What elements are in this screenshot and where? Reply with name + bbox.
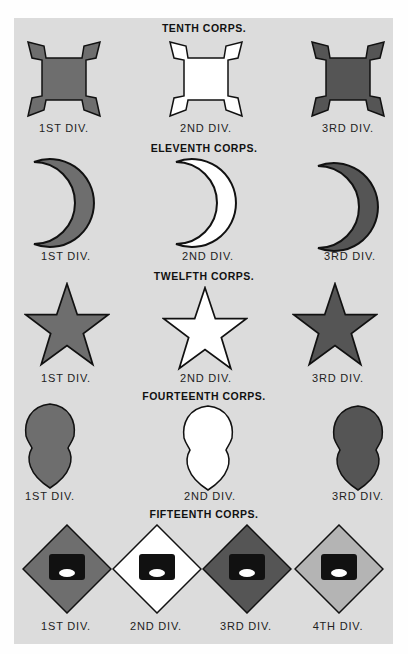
badge-twelfth-2nd-div (162, 286, 248, 372)
label-fifteenth-3rd: 3RD DIV. (206, 620, 286, 632)
label-fifteenth-1st: 1ST DIV. (26, 620, 106, 632)
label-eleventh-2nd: 2ND DIV. (168, 250, 248, 262)
badge-eleventh-3rd-div (314, 160, 386, 254)
title-tenth-corps: TENTH CORPS. (0, 22, 408, 34)
badge-fifteenth-1st-div (22, 524, 112, 614)
title-fourteenth-corps: FOURTEENTH CORPS. (0, 390, 408, 402)
label-tenth-1st: 1ST DIV. (24, 122, 104, 134)
title-fifteenth-corps: FIFTEENTH CORPS. (0, 508, 408, 520)
label-fourteenth-3rd: 3RD DIV. (318, 490, 398, 502)
badge-fifteenth-4th-div (294, 524, 384, 614)
badge-twelfth-3rd-div (292, 282, 378, 368)
badge-fourteenth-1st-div (22, 402, 78, 490)
badge-eleventh-1st-div (30, 156, 102, 250)
label-fourteenth-1st: 1ST DIV. (10, 490, 90, 502)
label-fifteenth-4th: 4TH DIV. (298, 620, 378, 632)
label-tenth-3rd: 3RD DIV. (308, 122, 388, 134)
badge-fourteenth-2nd-div (180, 404, 236, 492)
badge-twelfth-1st-div (24, 282, 110, 368)
badge-eleventh-2nd-div (172, 156, 244, 250)
label-twelfth-1st: 1ST DIV. (26, 372, 106, 384)
label-eleventh-1st: 1ST DIV. (26, 250, 106, 262)
label-eleventh-3rd: 3RD DIV. (310, 250, 390, 262)
label-twelfth-2nd: 2ND DIV. (166, 372, 246, 384)
badge-fourteenth-3rd-div (330, 404, 386, 492)
label-fifteenth-2nd: 2ND DIV. (116, 620, 196, 632)
label-tenth-2nd: 2ND DIV. (166, 122, 246, 134)
badge-fifteenth-3rd-div (202, 524, 292, 614)
title-twelfth-corps: TWELFTH CORPS. (0, 270, 408, 282)
badge-tenth-2nd-div (166, 38, 246, 120)
label-twelfth-3rd: 3RD DIV. (298, 372, 378, 384)
title-eleventh-corps: ELEVENTH CORPS. (0, 142, 408, 154)
badge-tenth-3rd-div (308, 38, 388, 120)
badge-fifteenth-2nd-div (112, 524, 202, 614)
label-fourteenth-2nd: 2ND DIV. (170, 490, 250, 502)
badge-tenth-1st-div (24, 38, 104, 120)
